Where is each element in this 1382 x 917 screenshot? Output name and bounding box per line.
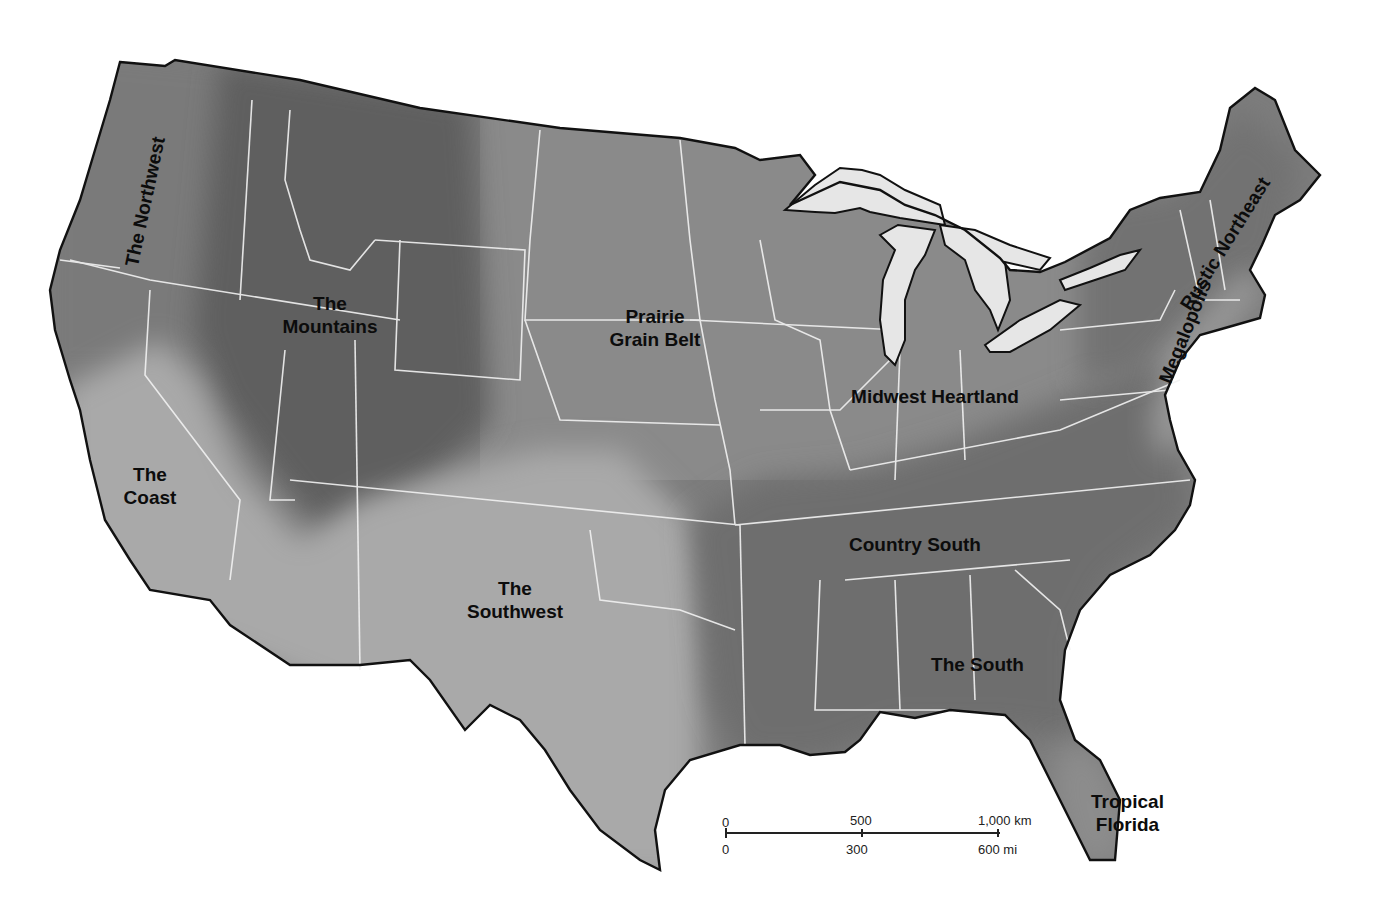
label-the-southwest: The Southwest (455, 577, 575, 623)
scale-km-500: 500 (850, 813, 872, 828)
label-line: The (455, 577, 575, 600)
label-prairie-grain-belt: Prairie Grain Belt (600, 305, 710, 351)
label-line: The (110, 463, 190, 486)
scale-mi-300: 300 (846, 842, 868, 857)
label-line: Southwest (455, 600, 575, 623)
label-line: Prairie (600, 305, 710, 328)
us-cultural-regions-map (0, 0, 1382, 917)
label-line: Florida (1080, 813, 1175, 836)
label-line: Coast (110, 486, 190, 509)
label-line: The (280, 292, 380, 315)
scale-km-0: 0 (722, 815, 729, 830)
label-tropical-florida: Tropical Florida (1080, 790, 1175, 836)
label-midwest-heartland: Midwest Heartland (840, 385, 1030, 408)
label-country-south: Country South (835, 533, 995, 556)
land-shading (0, 0, 1382, 917)
scale-mi-600: 600 mi (978, 842, 1017, 857)
label-line: Mountains (280, 315, 380, 338)
label-the-mountains: The Mountains (280, 292, 380, 338)
scale-bar (726, 828, 1000, 838)
label-the-south: The South (915, 653, 1040, 676)
label-the-coast: The Coast (110, 463, 190, 509)
label-line: Grain Belt (600, 328, 710, 351)
scale-mi-0: 0 (722, 842, 729, 857)
label-line: Tropical (1080, 790, 1175, 813)
scale-km-1000: 1,000 km (978, 813, 1031, 828)
